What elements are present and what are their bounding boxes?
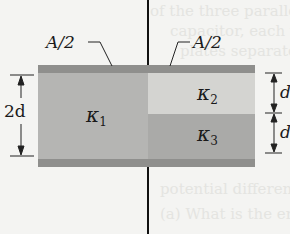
right-top-height-label: d (280, 82, 290, 102)
left-area-leader (88, 42, 112, 66)
capacitor-diagram: A/2 A/2 2d d d κ1 κ2 κ3 (0, 0, 290, 234)
left-height-label: 2d (4, 101, 26, 121)
left-area-label: A/2 (44, 32, 75, 52)
top-plate (38, 65, 255, 73)
right-area-leader (170, 42, 190, 66)
bottom-plate (38, 159, 255, 167)
right-area-label: A/2 (191, 32, 222, 52)
right-bottom-height-label: d (280, 122, 290, 142)
